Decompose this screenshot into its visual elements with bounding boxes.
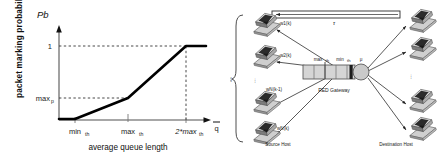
y-axis-title: Pb	[37, 9, 49, 20]
y-tick-maxp: max p	[36, 94, 54, 104]
x-tick-maxth-subscript: th	[139, 131, 143, 137]
destination-hosts: ⋮	[406, 6, 438, 143]
bracket-path	[232, 15, 243, 142]
link-dest-4	[368, 78, 406, 130]
destination-links	[368, 26, 406, 130]
aggregate-flow-label: n(k)	[230, 77, 232, 82]
svg-text:min: min	[69, 127, 81, 136]
gateway-server-node	[353, 64, 369, 80]
destination-host-2	[406, 34, 438, 63]
source-ellipsis: ⋮	[253, 78, 258, 83]
destination-host-3	[406, 86, 438, 115]
minth-subscript: th	[347, 58, 351, 63]
x-tick-maxth: max th	[121, 127, 144, 137]
svg-text:max: max	[314, 57, 323, 62]
flow-label-w2: w2(k)	[280, 53, 292, 58]
y-axis-label: packet marking probability	[15, 0, 24, 98]
gateway-caption: RED Gateway	[318, 87, 350, 93]
x-axis-label: average queue length	[88, 143, 168, 152]
flow-label-w1: w1(k)	[280, 21, 292, 26]
source-aggregate-bracket: n(k)	[230, 15, 243, 142]
svg-text:q: q	[214, 124, 218, 133]
network-topology-diagram: τ n(k)	[230, 0, 443, 158]
x-tick-2maxth-subscript: th	[199, 131, 203, 137]
tau-label: τ	[333, 20, 336, 26]
y-axis-label-line1: packet marking probability	[15, 0, 24, 98]
x-axis-arrowhead	[204, 117, 212, 123]
x-tick-minth: min th	[69, 127, 89, 137]
x-tick-minth-subscript: th	[85, 131, 89, 137]
x-tick-2maxth: 2*max th	[174, 127, 203, 137]
red-gateway: max th min th μ RED Gateway	[303, 57, 369, 93]
gateway-threshold-labels: max th min th	[314, 57, 352, 63]
red-probability-curve	[59, 46, 206, 119]
source-links	[277, 30, 334, 134]
figure-canvas: Pb 1 max p min th max th 2*max th	[0, 0, 443, 158]
source-host-3	[250, 88, 282, 117]
source-flow-labels: w1(k) w2(k) wN(k-1) wN(k)	[266, 21, 292, 131]
destination-ellipsis: ⋮	[409, 74, 414, 79]
minth-threshold-marker	[350, 65, 353, 79]
destination-host-4	[406, 114, 438, 143]
svg-text:max: max	[121, 127, 135, 136]
source-host-caption: Source Host	[265, 142, 291, 147]
source-host-2	[250, 42, 282, 71]
svg-text:min: min	[336, 57, 344, 62]
x-axis-symbol: q	[213, 122, 220, 133]
chart-guidelines	[59, 46, 186, 120]
destination-host-1	[406, 6, 438, 35]
gateway-service-rate-label: μ	[360, 57, 363, 62]
chart-axes	[56, 25, 211, 123]
svg-text:2*max: 2*max	[174, 127, 197, 136]
maxth-subscript: th	[326, 58, 330, 63]
y-tick-maxp-subscript: p	[51, 98, 54, 104]
y-tick-one: 1	[48, 42, 52, 51]
flow-label-wN-minus-1: wN(k-1)	[266, 87, 283, 92]
link-dest-3	[368, 75, 406, 104]
x-axis-ticks	[75, 114, 186, 123]
svg-text:max: max	[36, 94, 50, 103]
flow-label-wN: wN(k)	[277, 126, 289, 131]
destination-host-caption: Destination Host	[379, 142, 413, 147]
y-axis-arrowhead	[56, 25, 62, 33]
red-marking-probability-chart: Pb 1 max p min th max th 2*max th	[0, 0, 230, 158]
